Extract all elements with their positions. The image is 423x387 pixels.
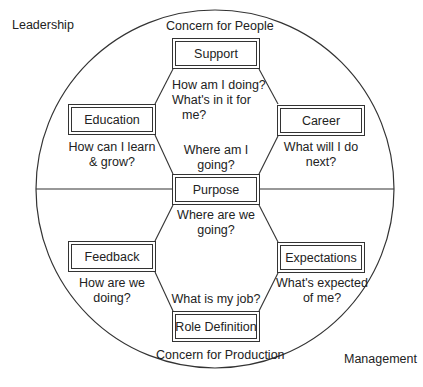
leadership-management-diagram: Leadership Management Concern for People… — [0, 0, 423, 387]
purpose-lower-question: Where are we going? — [172, 208, 260, 238]
concern-for-people-label: Concern for People — [166, 19, 266, 34]
purpose-box: Purpose — [172, 174, 260, 205]
purpose-upper-question: Where am I going? — [172, 143, 260, 173]
career-box-label: Career — [280, 108, 362, 133]
role-definition-question: What is my job? — [166, 292, 266, 307]
education-box-label: Education — [71, 107, 153, 132]
concern-for-production-label: Concern for Production — [156, 348, 276, 363]
expectations-question: What's expected of me? — [274, 276, 370, 306]
feedback-question: How are we doing? — [68, 276, 156, 306]
expectations-box: Expectations — [277, 242, 365, 273]
support-question: How am I doing? What's in it for me? — [172, 78, 266, 123]
management-label: Management — [344, 352, 417, 367]
feedback-box: Feedback — [68, 241, 156, 272]
role-definition-box: Role Definition — [172, 311, 260, 342]
expectations-box-label: Expectations — [280, 245, 362, 270]
education-box: Education — [68, 104, 156, 135]
education-question: How can I learn & grow? — [68, 140, 156, 170]
leadership-label: Leadership — [12, 18, 74, 33]
support-box: Support — [172, 38, 260, 69]
career-question: What will I do next? — [277, 140, 365, 170]
support-box-label: Support — [175, 41, 257, 66]
purpose-box-label: Purpose — [175, 177, 257, 202]
feedback-box-label: Feedback — [71, 244, 153, 269]
career-box: Career — [277, 105, 365, 136]
role-definition-box-label: Role Definition — [175, 314, 257, 339]
